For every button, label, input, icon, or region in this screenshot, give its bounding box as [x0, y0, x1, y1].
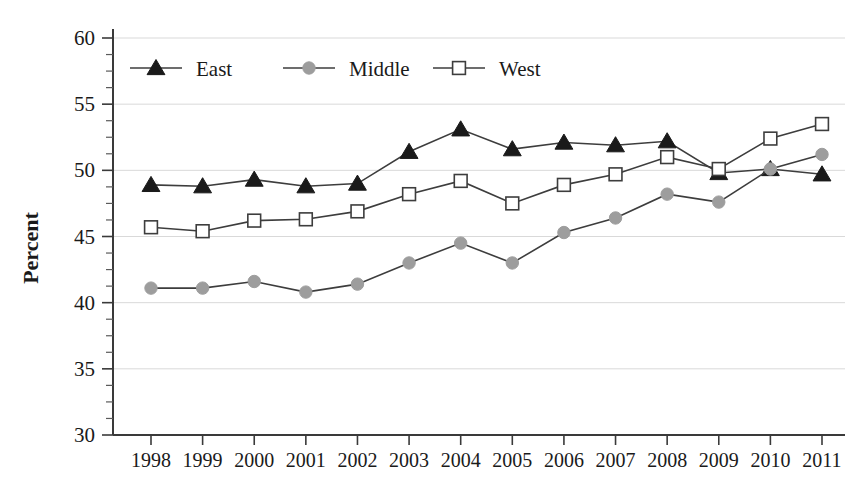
- data-point-west-2006: [558, 178, 571, 191]
- y-tick-label: 30: [74, 423, 95, 447]
- data-point-west-2009: [712, 163, 725, 176]
- x-tick-label: 2006: [544, 449, 584, 471]
- data-point-middle-2007: [609, 212, 621, 224]
- data-point-west-2002: [351, 205, 364, 218]
- data-point-middle-2001: [300, 286, 312, 298]
- data-point-west-2007: [609, 168, 622, 181]
- x-tick-label: 2011: [802, 449, 841, 471]
- x-tick-label: 2000: [234, 449, 274, 471]
- data-point-middle-2002: [351, 278, 363, 290]
- y-tick-label: 55: [74, 92, 95, 116]
- data-point-west-2010: [764, 132, 777, 145]
- x-tick-label: 2002: [337, 449, 377, 471]
- y-tick-label: 40: [74, 291, 95, 315]
- data-point-middle-2011: [816, 148, 828, 160]
- x-tick-label: 2007: [596, 449, 636, 471]
- data-point-middle-2000: [248, 275, 260, 287]
- data-point-west-2005: [506, 197, 519, 210]
- x-tick-label: 2004: [441, 449, 481, 471]
- y-tick-label: 50: [74, 158, 95, 182]
- data-point-west-1999: [196, 225, 209, 238]
- legend-label: East: [196, 57, 232, 81]
- x-tick-label: 2003: [389, 449, 429, 471]
- data-point-west-2001: [299, 213, 312, 226]
- y-tick-label: 45: [74, 225, 95, 249]
- data-point-middle-2008: [661, 188, 673, 200]
- data-point-middle-2005: [506, 257, 518, 269]
- y-tick-label: 35: [74, 357, 95, 381]
- x-tick-label: 2009: [699, 449, 739, 471]
- x-tick-label: 1999: [183, 449, 223, 471]
- x-tick-label: 2010: [750, 449, 790, 471]
- data-point-west-2000: [248, 214, 261, 227]
- data-point-west-2011: [816, 118, 829, 131]
- data-point-west-1998: [145, 221, 158, 234]
- x-tick-label: 2001: [286, 449, 326, 471]
- data-point-middle-2006: [558, 226, 570, 238]
- data-point-middle-2010: [764, 163, 776, 175]
- x-tick-label: 1998: [131, 449, 171, 471]
- data-point-middle-2009: [713, 196, 725, 208]
- x-tick-label: 2008: [647, 449, 687, 471]
- data-point-middle-2004: [454, 237, 466, 249]
- line-chart-canvas: 60555045403530 1998199920002001200220032…: [0, 0, 858, 497]
- data-point-middle-2003: [403, 257, 415, 269]
- data-point-west-2004: [454, 175, 467, 188]
- data-point-middle-1999: [196, 282, 208, 294]
- data-point-west-2008: [661, 151, 674, 164]
- plot-background: [0, 0, 858, 497]
- legend-label: Middle: [349, 57, 410, 81]
- x-tick-label: 2005: [492, 449, 532, 471]
- y-tick-label: 60: [74, 26, 95, 50]
- data-point-middle-1998: [145, 282, 157, 294]
- y-axis-title: Percent: [18, 212, 43, 284]
- chart-figure: 60555045403530 1998199920002001200220032…: [0, 0, 858, 497]
- legend-marker-middle: [303, 62, 315, 74]
- legend-marker-west: [453, 62, 466, 75]
- data-point-west-2003: [403, 188, 416, 201]
- legend-label: West: [499, 57, 541, 81]
